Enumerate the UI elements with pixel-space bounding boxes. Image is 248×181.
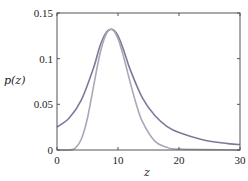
x-axis-label: z	[143, 166, 150, 179]
y-tick-label: 0	[48, 144, 54, 156]
series-line-2	[57, 29, 240, 150]
x-tick-label: 30	[235, 154, 247, 166]
y-tick-label: 0.05	[34, 98, 54, 110]
y-axis-label: p(z)	[4, 74, 25, 87]
x-tick-label: 20	[174, 154, 186, 166]
x-tick-label: 0	[54, 154, 60, 166]
plot-area	[57, 29, 240, 150]
x-tick-label: 10	[113, 154, 125, 166]
y-tick-label: 0.1	[39, 53, 53, 65]
line-chart: 010203000.050.10.15 z p(z)	[0, 0, 248, 181]
y-tick-label: 0.15	[34, 7, 54, 19]
